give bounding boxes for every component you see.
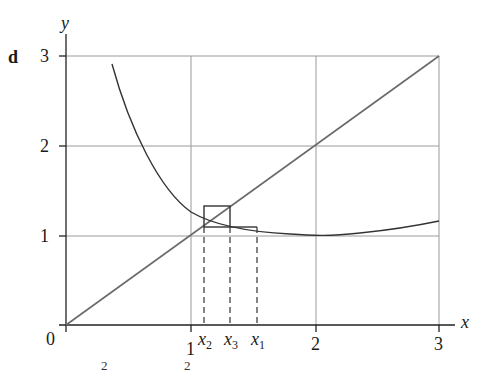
origin-label: 0 (46, 330, 55, 348)
x-axis-label: x (461, 313, 469, 331)
y-tick-3: 3 (40, 47, 49, 65)
cut-off-text-fragment: 2 (101, 359, 108, 372)
iterate-label-x1: x1 (251, 330, 265, 351)
y-tick-1: 1 (40, 227, 49, 245)
panel-label: d (8, 48, 18, 66)
cut-off-text-fragment: 2 (184, 359, 191, 372)
x-tick-3: 3 (434, 335, 443, 353)
x-tick-2: 2 (311, 335, 320, 353)
dashed-iterates (204, 227, 257, 325)
iterate-label-x3: x3 (224, 330, 238, 351)
function-curve (112, 64, 439, 235)
iterate-label-x2: x2 (198, 330, 212, 351)
y-tick-2: 2 (40, 137, 49, 155)
y-axis-label: y (61, 14, 69, 32)
x-tick-1: 1 (186, 340, 195, 358)
